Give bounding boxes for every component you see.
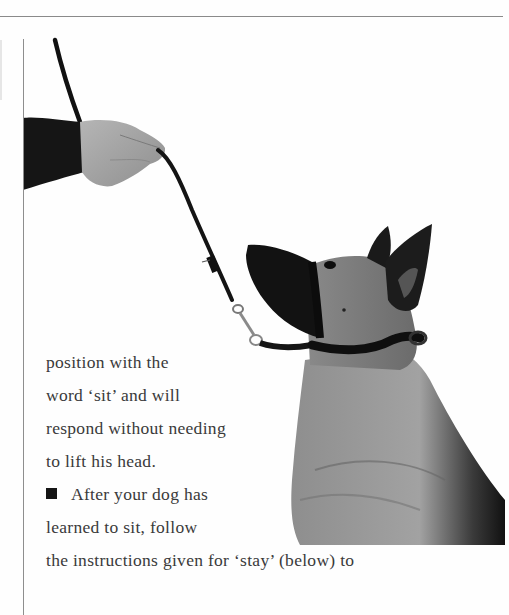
hand [80, 120, 165, 186]
text-line: respond without needing [46, 418, 226, 438]
book-page: position with the word ‘sit’ and will re… [0, 0, 509, 615]
leash-lower [158, 150, 232, 300]
text-line: After your dog has [71, 484, 208, 504]
text-line: position with the [46, 352, 169, 372]
bullet-paragraph-line: After your dog has [46, 484, 208, 504]
text-line: learned to sit, follow [46, 517, 197, 537]
dark-sleeve [23, 117, 84, 190]
text-line: to lift his head. [46, 451, 156, 471]
leash-upper [55, 40, 80, 122]
bullet-square-icon [46, 488, 57, 499]
text-line: the instructions given for ‘stay’ (below… [46, 550, 354, 570]
margin-rule [23, 39, 24, 615]
dog [246, 224, 505, 545]
text-line: word ‘sit’ and will [46, 385, 180, 405]
